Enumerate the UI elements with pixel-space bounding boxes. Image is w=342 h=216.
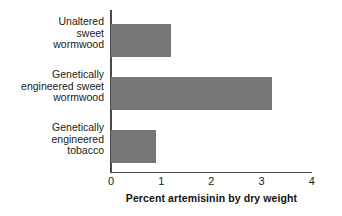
category-label-genetically-engineered-sweet-wormwood: Genetically engineered sweet wormwood xyxy=(0,69,104,104)
bar-genetically-engineered-tobacco xyxy=(111,130,156,163)
x-tick-label-1: 1 xyxy=(149,175,173,188)
x-tick-label-4: 4 xyxy=(300,175,324,188)
plot-area xyxy=(111,10,312,172)
bar-unaltered-sweet-wormwood xyxy=(111,24,171,57)
x-tick-label-3: 3 xyxy=(250,175,274,188)
x-tick-label-0: 0 xyxy=(99,175,123,188)
bar-genetically-engineered-sweet-wormwood xyxy=(111,77,272,110)
x-axis-title: Percent artemisinin by dry weight xyxy=(111,192,312,204)
category-label-unaltered-sweet-wormwood: Unaltered sweet wormwood xyxy=(0,16,104,51)
category-label-genetically-engineered-tobacco: Genetically engineered tobacco xyxy=(0,122,104,157)
bar-chart-figure: Unaltered sweet wormwood Genetically eng… xyxy=(0,0,342,216)
x-tick-label-2: 2 xyxy=(199,175,223,188)
